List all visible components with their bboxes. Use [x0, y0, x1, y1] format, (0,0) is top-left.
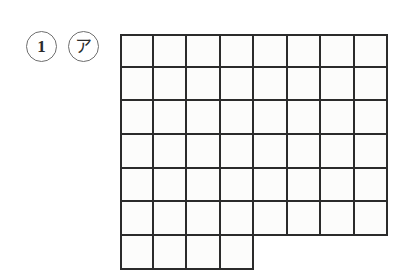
- grid-cell[interactable]: [221, 101, 255, 135]
- grid-cell[interactable]: [221, 202, 255, 236]
- grid-row: [120, 135, 388, 169]
- grid-cell[interactable]: [120, 34, 154, 68]
- grid-cell[interactable]: [154, 236, 188, 270]
- grid-row: [120, 101, 388, 135]
- label-group: 1 ア: [26, 31, 99, 62]
- grid-cell[interactable]: [154, 202, 188, 236]
- grid-cell[interactable]: [154, 169, 188, 203]
- grid-cell[interactable]: [288, 34, 322, 68]
- grid-cell[interactable]: [321, 101, 355, 135]
- grid-cell[interactable]: [321, 169, 355, 203]
- circled-number-1: 1: [26, 31, 57, 62]
- grid-cell[interactable]: [254, 169, 288, 203]
- grid-cell[interactable]: [355, 135, 389, 169]
- grid-cell[interactable]: [355, 169, 389, 203]
- grid-cell[interactable]: [120, 169, 154, 203]
- grid-row: [120, 169, 388, 203]
- grid-cell[interactable]: [187, 34, 221, 68]
- grid-cell[interactable]: [221, 169, 255, 203]
- grid-cell[interactable]: [187, 68, 221, 102]
- grid-cell[interactable]: [288, 101, 322, 135]
- grid-cell[interactable]: [120, 236, 154, 270]
- grid-cell[interactable]: [187, 236, 221, 270]
- grid-cell[interactable]: [221, 34, 255, 68]
- grid-cell[interactable]: [321, 34, 355, 68]
- worksheet-page: 1 ア: [0, 0, 413, 277]
- grid-cell[interactable]: [154, 34, 188, 68]
- grid-cell[interactable]: [154, 135, 188, 169]
- grid-cell[interactable]: [288, 135, 322, 169]
- grid-cell[interactable]: [321, 68, 355, 102]
- grid-cell[interactable]: [187, 169, 221, 203]
- grid-cell[interactable]: [321, 135, 355, 169]
- grid-cell[interactable]: [254, 68, 288, 102]
- circled-kana-a: ア: [68, 31, 99, 62]
- grid-row: [120, 68, 388, 102]
- grid-cell[interactable]: [355, 34, 389, 68]
- grid-cell[interactable]: [254, 101, 288, 135]
- grid-cell[interactable]: [187, 101, 221, 135]
- step-shaped-square-grid: [120, 34, 388, 270]
- circled-kana-a-text: ア: [75, 38, 92, 55]
- grid-cell[interactable]: [254, 202, 288, 236]
- grid-cell[interactable]: [288, 202, 322, 236]
- grid-cell[interactable]: [120, 68, 154, 102]
- grid-cell[interactable]: [355, 68, 389, 102]
- grid-cell[interactable]: [355, 101, 389, 135]
- grid-cell[interactable]: [187, 202, 221, 236]
- grid-cell[interactable]: [120, 202, 154, 236]
- grid-cell[interactable]: [120, 101, 154, 135]
- grid-cell[interactable]: [154, 68, 188, 102]
- grid-row: [120, 236, 388, 270]
- grid-cell[interactable]: [254, 34, 288, 68]
- grid-cell[interactable]: [355, 202, 389, 236]
- grid-cell[interactable]: [254, 135, 288, 169]
- grid-cell[interactable]: [154, 101, 188, 135]
- grid-cell[interactable]: [221, 236, 255, 270]
- grid-cell[interactable]: [221, 68, 255, 102]
- grid-row: [120, 34, 388, 68]
- grid-cell[interactable]: [288, 169, 322, 203]
- circled-number-1-text: 1: [37, 38, 46, 55]
- grid-cell[interactable]: [221, 135, 255, 169]
- grid-cell[interactable]: [187, 135, 221, 169]
- grid-row: [120, 202, 388, 236]
- grid-cell[interactable]: [120, 135, 154, 169]
- grid-cell[interactable]: [321, 202, 355, 236]
- grid-cell[interactable]: [288, 68, 322, 102]
